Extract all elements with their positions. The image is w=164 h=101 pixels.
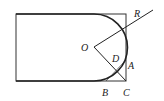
label-B: B xyxy=(102,88,108,98)
segment-OC xyxy=(94,47,126,81)
label-D: D xyxy=(112,54,119,64)
label-O: O xyxy=(81,43,88,53)
rectangle xyxy=(16,14,126,81)
label-A: A xyxy=(128,61,134,71)
rounded-shape-arc xyxy=(16,14,127,81)
label-C: C xyxy=(123,88,130,98)
geometry-diagram: O D A B C R xyxy=(0,0,164,101)
label-R: R xyxy=(134,9,140,19)
